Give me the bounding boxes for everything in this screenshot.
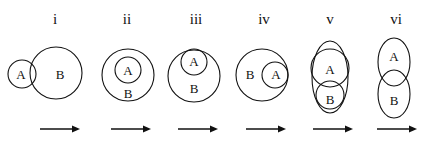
panel-v-label-b: B (326, 92, 335, 107)
panel-numeral-i: i (53, 11, 57, 27)
panel-iv-arrow-head (278, 126, 286, 133)
panel-i-label-b: B (56, 67, 65, 82)
panel-ii-arrow (111, 126, 151, 133)
panel-iv-label-a: A (271, 67, 281, 82)
panel-ii-label-a: A (123, 63, 133, 78)
panel-iii-label-b: B (190, 81, 199, 96)
panel-v-arrow-head (345, 126, 353, 133)
panel-numeral-ii: ii (123, 11, 131, 27)
panel-vi: viAB (377, 11, 417, 132)
panel-numeral-iii: iii (190, 11, 203, 27)
panel-i: iAB (8, 11, 82, 132)
panel-numeral-v: v (326, 11, 334, 27)
panel-i-label-a: A (16, 67, 26, 82)
panel-ii: iiAB (102, 11, 154, 132)
panel-vi-arrow (377, 126, 417, 133)
panel-numeral-vi: vi (390, 11, 402, 27)
panel-vi-label-a: A (389, 49, 399, 64)
panel-vi-label-b: B (390, 93, 399, 108)
panel-iv-label-b: B (246, 67, 255, 82)
panel-i-arrow (40, 126, 80, 133)
panel-v: vAB (311, 11, 353, 132)
panel-vi-arrow-head (409, 126, 417, 133)
panel-ii-label-b: B (124, 86, 133, 101)
diagram-canvas: iABiiABiiiABivBAvABviAB (0, 0, 430, 146)
panel-ii-arrow-head (143, 126, 151, 133)
panel-iii-arrow (178, 126, 218, 133)
panel-v-label-a: A (325, 62, 335, 77)
euler-diagram-figure: iABiiABiiiABivBAvABviAB (0, 0, 430, 146)
panel-iv-arrow (246, 126, 286, 133)
panel-i-arrow-head (72, 126, 80, 133)
panel-iv: ivBA (236, 11, 288, 132)
panel-iii-arrow-head (210, 126, 218, 133)
panel-v-arrow (313, 126, 353, 133)
panel-numeral-iv: iv (258, 11, 270, 27)
panel-iii: iiiAB (168, 11, 220, 132)
panel-iii-label-a: A (189, 54, 199, 69)
